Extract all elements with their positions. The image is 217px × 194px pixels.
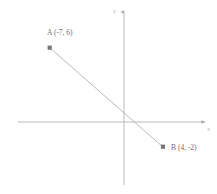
- segment-ab: [50, 48, 163, 147]
- plot-area: [0, 0, 217, 194]
- y-axis-label: y: [113, 8, 116, 14]
- point-a-label: A (-7, 6): [47, 29, 73, 37]
- coordinate-plane-figure: y x A (-7, 6) B (4, -2): [0, 0, 217, 194]
- point-b-label: B (4, -2): [171, 144, 197, 152]
- x-axis-label: x: [207, 126, 210, 132]
- point-b-marker: [161, 145, 165, 149]
- point-a-marker: [48, 46, 52, 50]
